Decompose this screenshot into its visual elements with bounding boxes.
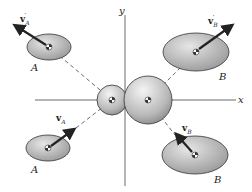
center-marker-icon [145,97,151,103]
center-marker-icon [45,145,51,151]
contact-spheres [97,76,172,124]
body-a-before: vA A [26,113,73,175]
center-marker-icon [192,152,198,158]
velocity-label-vb-prime: vB′ [207,14,218,28]
x-axis-label: x [238,94,244,105]
body-label-a: A [30,164,38,175]
center-marker-icon [46,44,52,50]
body-b-before: vB B [162,123,228,185]
y-axis-label: y [118,5,125,16]
body-b-after: vB′ B [163,14,231,82]
body-label-b: B [213,174,221,185]
body-label-b: B [218,71,226,82]
center-marker-icon [193,49,199,55]
velocity-label-va: vA [55,113,66,125]
collision-diagram: y x vA′ A [0,0,252,192]
body-label-a: A [30,62,38,73]
center-marker-icon [109,97,115,103]
body-a-after: vA′ A [16,12,71,73]
velocity-label-va-prime: vA′ [19,12,30,26]
velocity-label-vb: vB [181,123,192,135]
